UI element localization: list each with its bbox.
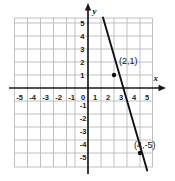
y-tick-label: -3 <box>80 127 87 136</box>
y-tick-label: -5 <box>80 153 87 162</box>
x-tick-label: -3 <box>42 93 49 102</box>
y-tick-label: -4 <box>80 140 87 149</box>
data-point-marker <box>138 151 142 155</box>
x-tick-label: -1 <box>68 93 75 102</box>
y-tick-label: 1 <box>80 71 84 80</box>
y-tick-label: 5 <box>80 19 84 28</box>
x-axis-label: x <box>153 73 159 83</box>
graph-canvas: y x -5 -4 -3 -2 -1 0 1 2 3 4 5 5 4 3 2 1… <box>0 0 175 181</box>
x-tick-label: 5 <box>145 93 149 102</box>
x-tick-label: 3 <box>119 93 123 102</box>
y-tick-label: 2 <box>80 58 84 67</box>
point-annotation-4-neg5: (4,-5) <box>134 140 156 150</box>
y-tick-label: 3 <box>80 45 84 54</box>
point-annotation-2-1: (2,1) <box>119 56 138 66</box>
x-tick-label: -2 <box>55 93 62 102</box>
x-tick-label: 1 <box>93 93 97 102</box>
x-tick-label: -4 <box>29 93 36 102</box>
x-tick-label: 2 <box>106 93 110 102</box>
y-tick-label: -1 <box>80 101 87 110</box>
data-point-marker <box>112 73 116 77</box>
y-tick-label: -2 <box>80 114 87 123</box>
coordinate-plane-graph: y x -5 -4 -3 -2 -1 0 1 2 3 4 5 5 4 3 2 1… <box>0 0 175 181</box>
x-tick-label: -5 <box>16 93 23 102</box>
